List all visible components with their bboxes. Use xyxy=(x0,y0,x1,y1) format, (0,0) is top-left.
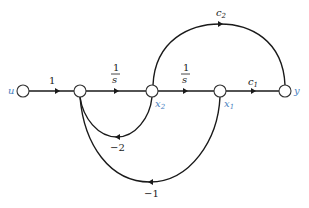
svg-text:1: 1 xyxy=(183,62,189,73)
gain-x1-y: c1 xyxy=(248,76,258,89)
gain-n1-x2: 1 s xyxy=(111,62,120,85)
node-n1 xyxy=(74,85,86,97)
gain-x2-y: c2 xyxy=(216,7,227,20)
arrow-head-icon xyxy=(55,88,60,94)
arrow-head-icon xyxy=(115,134,120,140)
node-x1 xyxy=(214,85,226,97)
gain-u-n1: 1 xyxy=(49,75,55,86)
arrow-head-icon xyxy=(218,21,223,27)
gain-x1-n1: −1 xyxy=(144,188,159,199)
arrow-head-icon xyxy=(148,179,153,185)
gain-x2-x1: 1 s xyxy=(181,62,190,85)
edge-x1-n1-loop xyxy=(80,97,220,182)
svg-text:1: 1 xyxy=(113,62,119,73)
node-label-x1: x1 xyxy=(224,98,234,111)
node-label-u: u xyxy=(8,85,14,96)
edge-x2-n1-loop xyxy=(80,97,152,137)
node-y xyxy=(279,85,291,97)
svg-text:s: s xyxy=(182,74,187,85)
arrow-head-icon xyxy=(183,88,188,94)
edge-x2-y-arc xyxy=(153,24,285,85)
signal-flow-graph: u x2 x1 y 1 1 s 1 s c1 c2 −2 −1 xyxy=(0,0,309,208)
gain-x2-n1: −2 xyxy=(110,142,125,153)
svg-text:s: s xyxy=(112,74,117,85)
arrow-head-icon xyxy=(114,88,119,94)
node-label-y: y xyxy=(293,85,300,96)
node-u xyxy=(17,85,29,97)
node-label-x2: x2 xyxy=(155,98,166,111)
node-x2 xyxy=(146,85,158,97)
